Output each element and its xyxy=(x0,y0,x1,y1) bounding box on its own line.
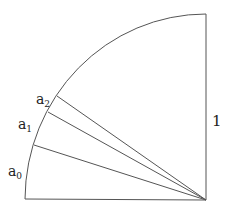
label-a1: a1 xyxy=(18,116,32,134)
label-a2: a2 xyxy=(36,91,50,109)
line-a1 xyxy=(48,112,206,200)
sector-diagram: a2 a1 a0 1 xyxy=(0,0,227,212)
line-a2 xyxy=(57,96,206,200)
side-label-one: 1 xyxy=(212,112,222,130)
line-a0 xyxy=(34,145,206,200)
horizontal-radius xyxy=(25,199,206,200)
label-a0: a0 xyxy=(8,163,22,181)
